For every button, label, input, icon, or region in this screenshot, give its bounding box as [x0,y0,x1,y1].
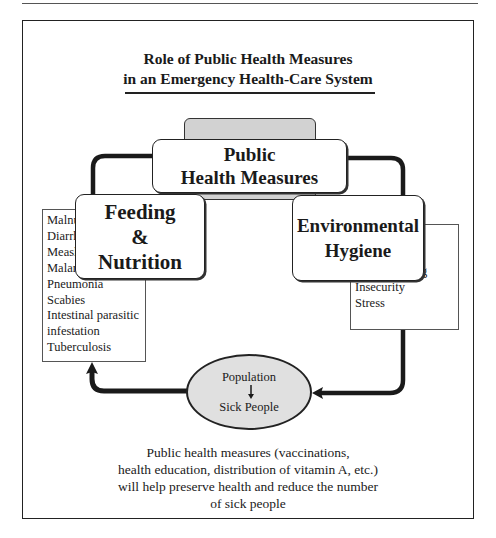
feeding-nutrition-box: Feeding & Nutrition [75,194,205,279]
caption-line: Public health measures (vaccinations, [0,444,496,461]
list-item: Insecurity [355,280,458,296]
caption-line: will help preserve health and reduce the… [0,478,496,495]
node-label: Feeding [76,200,204,225]
list-item: Stress [355,296,458,312]
list-item: Tuberculosis [47,340,145,356]
environmental-hygiene-box: Environmental Hygiene [292,195,424,281]
down-arrow-icon [248,385,254,399]
caption: Public health measures (vaccinations, he… [0,444,496,512]
caption-line: health education, distribution of vitami… [0,461,496,478]
node-label: Public [153,143,346,166]
list-item: infestation [47,324,145,340]
population-ellipse: Population Sick People [186,354,312,430]
list-item: Scabies [47,293,145,309]
node-label: Health Measures [153,166,346,189]
node-label: Nutrition [76,250,204,275]
population-label: Population [188,370,310,385]
public-health-measures-box: Public Health Measures [152,139,347,193]
node-label: Hygiene [293,238,423,263]
caption-line: of sick people [0,495,496,512]
list-item: Intestinal parasitic [47,308,145,324]
list-item: Pneumonia [47,277,145,293]
node-label: & [76,225,204,250]
sick-people-label: Sick People [188,400,310,415]
node-label: Environmental [293,213,423,238]
